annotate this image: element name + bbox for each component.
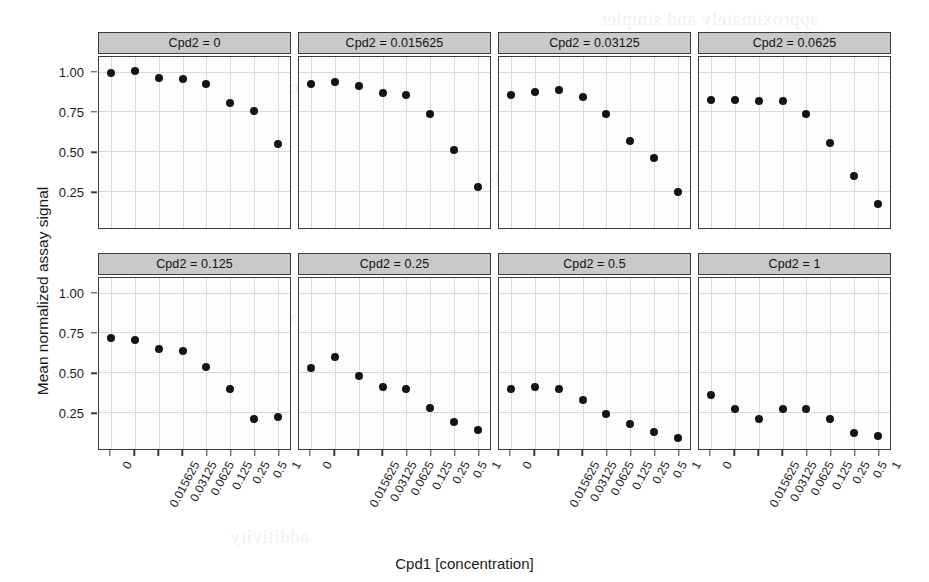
gridline-vertical <box>430 57 431 228</box>
gridline-horizontal <box>499 293 690 294</box>
gridline-vertical <box>454 57 455 228</box>
gridline-vertical <box>583 57 584 228</box>
data-point <box>707 391 715 399</box>
x-axis-tick-label: 0.5 <box>470 459 490 480</box>
gridline-horizontal <box>699 111 890 112</box>
gridline-horizontal <box>699 293 890 294</box>
data-point <box>331 353 339 361</box>
y-axis-tick-mark <box>91 111 97 112</box>
gridline-horizontal <box>299 111 490 112</box>
gridline-vertical <box>830 278 831 449</box>
gridline-vertical <box>583 278 584 449</box>
data-point <box>602 410 610 418</box>
gridline-vertical <box>254 278 255 449</box>
gridline-horizontal <box>99 332 290 333</box>
gridline-vertical <box>135 57 136 228</box>
panel-plot-area <box>698 277 891 450</box>
gridline-vertical <box>430 278 431 449</box>
data-point <box>379 89 387 97</box>
panel-cpd2-0.125: Cpd2 = 0.125 <box>98 253 291 450</box>
data-point <box>107 334 115 342</box>
x-axis-tick-label: 0 <box>120 459 136 471</box>
gridline-vertical <box>383 57 384 228</box>
gridline-horizontal <box>99 191 290 192</box>
data-point <box>507 91 515 99</box>
gridline-horizontal <box>299 412 490 413</box>
gridline-vertical <box>678 278 679 449</box>
gridline-vertical <box>783 278 784 449</box>
y-axis-tick-label: 1.00 <box>30 65 84 80</box>
data-point <box>555 86 563 94</box>
x-axis-tick-mark <box>158 450 159 456</box>
gridline-vertical <box>735 57 736 228</box>
data-point <box>626 420 634 428</box>
x-axis-tick-mark <box>133 450 134 456</box>
x-axis-tick-label: 0.5 <box>870 459 890 480</box>
gridline-vertical <box>735 278 736 449</box>
x-axis-tick-mark <box>358 450 359 456</box>
panel-strip-label: Cpd2 = 0.5 <box>498 253 691 275</box>
panel-strip-label: Cpd2 = 0.25 <box>298 253 491 275</box>
gridline-horizontal <box>499 372 690 373</box>
gridline-vertical <box>678 57 679 228</box>
gridline-vertical <box>711 57 712 228</box>
data-point <box>155 74 163 82</box>
data-point <box>379 383 387 391</box>
gridline-vertical <box>654 57 655 228</box>
panel-cpd2-0.5: Cpd2 = 0.5 <box>498 253 691 450</box>
gridline-horizontal <box>699 372 890 373</box>
data-point <box>531 88 539 96</box>
data-point <box>179 347 187 355</box>
data-point <box>250 107 258 115</box>
data-point <box>450 146 458 154</box>
y-axis-tick-label: 0.50 <box>30 145 84 160</box>
data-point <box>155 345 163 353</box>
data-point <box>707 96 715 104</box>
gridline-vertical <box>111 57 112 228</box>
y-axis-tick-mark <box>91 71 97 72</box>
panel-cpd2-0: Cpd2 = 0 <box>98 32 291 229</box>
data-point <box>226 99 234 107</box>
data-point <box>579 93 587 101</box>
data-point <box>650 154 658 162</box>
panel-cpd2-0.015625: Cpd2 = 0.015625 <box>298 32 491 229</box>
panel-plot-area <box>298 277 491 450</box>
x-axis-tick-mark <box>709 450 710 456</box>
y-axis-tick-label: 0.75 <box>30 105 84 120</box>
y-axis-tick-mark <box>91 191 97 192</box>
x-axis-tick-mark <box>230 450 231 456</box>
gridline-horizontal <box>299 151 490 152</box>
panel-cpd2-0.03125: Cpd2 = 0.03125 <box>498 32 691 229</box>
x-axis-tick-label: 1 <box>688 459 704 471</box>
x-axis-tick-mark <box>430 450 431 456</box>
data-point <box>202 363 210 371</box>
x-axis-tick-mark <box>806 450 807 456</box>
data-point <box>802 405 810 413</box>
gridline-vertical <box>335 278 336 449</box>
gridline-vertical <box>230 278 231 449</box>
gridline-vertical <box>759 57 760 228</box>
panel-plot-area <box>498 56 691 229</box>
gridline-vertical <box>478 278 479 449</box>
panel-cpd2-0.25: Cpd2 = 0.25 <box>298 253 491 450</box>
x-axis-tick-mark <box>654 450 655 456</box>
gridline-vertical <box>535 57 536 228</box>
panel-plot-area <box>98 56 291 229</box>
gridline-vertical <box>606 278 607 449</box>
data-point <box>826 139 834 147</box>
panel-strip-label: Cpd2 = 1 <box>698 253 891 275</box>
data-point <box>602 110 610 118</box>
y-axis-tick-label: 1.00 <box>30 286 84 301</box>
y-axis-tick-label: 0.75 <box>30 326 84 341</box>
x-axis-tick-label: 1 <box>888 459 904 471</box>
gridline-horizontal <box>499 412 690 413</box>
panel-strip-label: Cpd2 = 0.125 <box>98 253 291 275</box>
gridline-horizontal <box>99 293 290 294</box>
data-point <box>731 96 739 104</box>
gridline-vertical <box>135 278 136 449</box>
gridline-vertical <box>111 278 112 449</box>
gridline-horizontal <box>499 111 690 112</box>
x-axis-tick-label: 1 <box>288 459 304 471</box>
gridline-horizontal <box>699 72 890 73</box>
y-axis-tick-label: 0.25 <box>30 185 84 200</box>
